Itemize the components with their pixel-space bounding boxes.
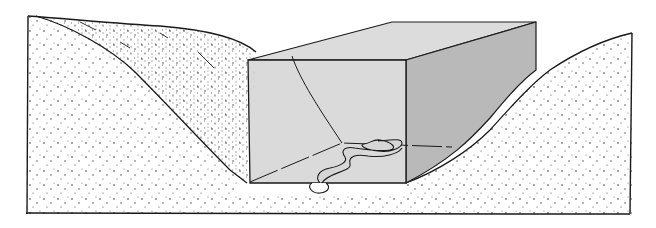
box-front-face — [248, 60, 406, 183]
valley-box-drawing — [0, 0, 656, 228]
